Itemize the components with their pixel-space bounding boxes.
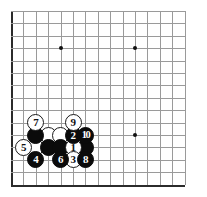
stone-black-move-10[interactable]: 10 (77, 127, 94, 144)
grid-line-horizontal (11, 85, 185, 86)
grid-line-horizontal (11, 73, 185, 74)
stone-move-number: 9 (71, 117, 76, 128)
grid-line-horizontal (11, 61, 185, 62)
grid-line-horizontal (11, 48, 185, 49)
stone-black-move-4[interactable]: 4 (27, 151, 44, 168)
grid-line-horizontal (11, 23, 185, 24)
stone-move-number: 8 (83, 154, 88, 165)
grid-line-horizontal (11, 11, 185, 12)
star-point (133, 133, 137, 137)
stone-black-move-8[interactable]: 8 (77, 151, 94, 168)
grid-line-vertical (185, 11, 186, 185)
grid-line-horizontal (11, 36, 185, 37)
star-point (133, 46, 137, 50)
stone-black-move-6[interactable]: 6 (52, 151, 69, 168)
stone-white-move-5[interactable]: 5 (15, 139, 32, 156)
stone-move-number: 4 (33, 154, 38, 165)
stone-move-number: 6 (58, 154, 63, 165)
stone-move-number: 5 (21, 141, 26, 152)
grid-line-horizontal (11, 172, 185, 173)
stone-move-number: 3 (71, 154, 76, 165)
board-edge-bottom (11, 185, 185, 187)
grid-line-horizontal (11, 110, 185, 111)
stone-move-number: 10 (82, 129, 90, 140)
star-point (59, 46, 63, 50)
grid-line-horizontal (11, 98, 185, 99)
go-board-grid[interactable]: 12345678910 (0, 0, 207, 197)
stone-move-number: 7 (33, 117, 38, 128)
go-board-diagram: 12345678910 (0, 0, 207, 197)
